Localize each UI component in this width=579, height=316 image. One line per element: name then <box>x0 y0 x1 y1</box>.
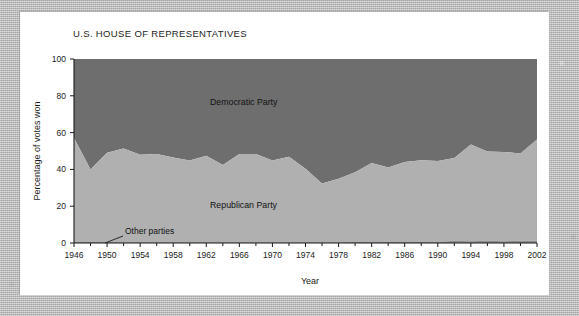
y-tick-label: 80 <box>57 91 67 101</box>
x-tick-label: 1958 <box>164 250 183 260</box>
x-tick-label: 1978 <box>329 250 348 260</box>
x-tick-label: 1994 <box>461 250 480 260</box>
area-chart: 020406080100 194619501954195819621966197… <box>20 12 549 295</box>
x-tick-label: 1974 <box>296 250 315 260</box>
y-tick-label: 0 <box>61 238 66 248</box>
figure-card: U.S. HOUSE OF REPRESENTATIVES 0204060801… <box>20 12 549 295</box>
y-axis-ticks: 020406080100 <box>52 54 74 248</box>
x-tick-label: 1986 <box>395 250 414 260</box>
y-tick-label: 100 <box>52 54 66 64</box>
x-tick-label: 1970 <box>263 250 282 260</box>
y-tick-label: 60 <box>57 128 67 138</box>
republican-series-label: Republican Party <box>210 200 278 210</box>
x-tick-label: 1966 <box>230 250 249 260</box>
x-tick-label: 1998 <box>494 250 513 260</box>
other-parties-label: Other parties <box>125 226 174 236</box>
x-axis-ticks: 1946195019541958196219661970197419781982… <box>65 243 547 260</box>
y-axis-title: Percentage of votes won <box>32 101 42 200</box>
x-tick-label: 1982 <box>362 250 381 260</box>
x-tick-label: 1950 <box>98 250 117 260</box>
stacked-areas <box>74 59 537 243</box>
chart-plot-area: 020406080100 194619501954195819621966197… <box>20 12 549 295</box>
democratic-series-label: Democratic Party <box>210 97 278 107</box>
y-tick-label: 20 <box>57 201 67 211</box>
x-axis-title: Year <box>301 276 319 286</box>
y-tick-label: 40 <box>57 164 67 174</box>
x-tick-label: 1954 <box>131 250 150 260</box>
x-tick-label: 1946 <box>65 250 84 260</box>
x-tick-label: 1990 <box>428 250 447 260</box>
x-tick-label: 2002 <box>528 250 547 260</box>
x-tick-label: 1962 <box>197 250 216 260</box>
